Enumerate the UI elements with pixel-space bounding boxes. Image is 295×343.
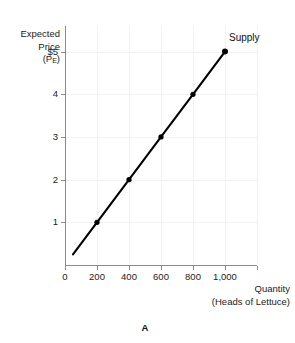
figure-panel-a: Expected Price (PE) 1234$5 0200400600800… — [0, 0, 295, 343]
data-point-marker — [158, 134, 163, 139]
plot-area: 1234$5 02004006008001,000 Supply — [65, 26, 257, 265]
x-axis-tick — [65, 266, 66, 270]
x-axis-tick-label: 600 — [153, 272, 169, 282]
x-axis-tick — [225, 266, 226, 270]
x-axis-tick-label: 800 — [185, 272, 201, 282]
x-axis-tick-label: 200 — [89, 272, 105, 282]
series-annotation-supply: Supply — [229, 33, 260, 43]
data-point-marker — [126, 177, 131, 182]
data-point-marker — [222, 49, 228, 55]
x-axis-tick — [129, 266, 130, 270]
gridline-vertical — [257, 26, 258, 265]
x-axis-tick — [257, 266, 258, 270]
y-axis-tick-label: 4 — [53, 89, 58, 99]
x-axis-title: Quantity (Heads of Lettuce) — [120, 283, 290, 308]
supply-curve-series — [65, 26, 257, 265]
x-axis-tick — [97, 266, 98, 270]
x-axis-tick-label: 400 — [121, 272, 137, 282]
x-axis-tick — [161, 266, 162, 270]
y-axis-tick-label: 3 — [53, 132, 58, 142]
x-axis-title-sub: (Heads of Lettuce) — [120, 296, 290, 309]
y-axis-tick-label: 2 — [53, 175, 58, 185]
x-axis-tick — [193, 266, 194, 270]
data-point-marker — [94, 220, 99, 225]
data-point-marker — [190, 92, 195, 97]
y-axis-tick-label: $5 — [47, 47, 58, 57]
y-axis-tick-label: 1 — [53, 217, 58, 227]
y-axis-title-line-1: Expected — [8, 28, 60, 41]
x-axis-tick-label: 0 — [62, 272, 67, 282]
x-axis-title-main: Quantity — [120, 283, 290, 296]
x-axis-tick-label: 1,000 — [213, 272, 237, 282]
panel-label: A — [0, 322, 290, 333]
